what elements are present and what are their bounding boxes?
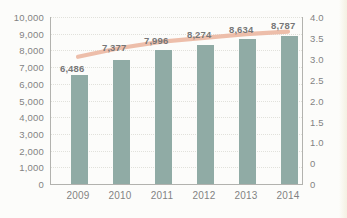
bars-layer bbox=[51, 17, 302, 184]
y2-axis-label-1-0: 1.0 bbox=[310, 137, 324, 148]
y-axis-label-9000: 9,000 bbox=[0, 29, 44, 40]
y2-axis-label-1-5: 1.5 bbox=[310, 117, 324, 128]
data-label-2012: 8,274 bbox=[187, 29, 211, 40]
y2-axis-label-4-0: 4.0 bbox=[310, 12, 324, 23]
y-axis-label-3000: 3,000 bbox=[0, 129, 44, 140]
scan-edge-strip bbox=[339, 0, 347, 218]
y-axis-label-6000: 6,000 bbox=[0, 79, 44, 90]
x-axis-label-2013: 2013 bbox=[225, 190, 267, 201]
chart-container: 10,000 9,000 8,000 7,000 6,000 5,000 4,0… bbox=[0, 0, 347, 218]
bar-2009 bbox=[71, 75, 88, 184]
bar-2010 bbox=[113, 60, 130, 184]
y2-axis-label-0-5: 0 bbox=[310, 158, 315, 169]
y2-axis-label-3-5: 3.5 bbox=[310, 33, 324, 44]
y-axis-label-7000: 7,000 bbox=[0, 62, 44, 73]
x-axis-label-2014: 2014 bbox=[267, 190, 309, 201]
y-axis-label-10000: 10,000 bbox=[0, 12, 44, 23]
y-axis-label-5000: 5,000 bbox=[0, 96, 44, 107]
data-label-2011: 7,996 bbox=[144, 35, 168, 46]
data-label-2013: 8,634 bbox=[229, 24, 253, 35]
data-label-2009: 6,486 bbox=[60, 63, 84, 74]
y-axis-label-4000: 4,000 bbox=[0, 112, 44, 123]
y2-axis-label-0: 0 bbox=[310, 179, 315, 190]
y2-axis-label-3-0: 3.0 bbox=[310, 54, 324, 65]
x-axis-label-2010: 2010 bbox=[99, 190, 141, 201]
bar-2013 bbox=[239, 39, 256, 184]
data-label-2010: 7,377 bbox=[102, 42, 126, 53]
y-axis-label-8000: 8,000 bbox=[0, 45, 44, 56]
bar-2011 bbox=[155, 50, 172, 184]
y-axis-label-1000: 1,000 bbox=[0, 162, 44, 173]
x-axis-label-2009: 2009 bbox=[57, 190, 99, 201]
plot-area bbox=[50, 17, 303, 185]
y2-axis-label-2-5: 2.5 bbox=[310, 75, 324, 86]
x-axis-label-2011: 2011 bbox=[141, 190, 183, 201]
data-label-2014: 8,787 bbox=[271, 20, 295, 31]
y-axis-label-2000: 2,000 bbox=[0, 146, 44, 157]
bar-2012 bbox=[197, 45, 214, 184]
y-axis-label-0: 0 bbox=[0, 179, 44, 190]
bar-2014 bbox=[281, 36, 298, 184]
y2-axis-label-2-0: 2.0 bbox=[310, 96, 324, 107]
x-axis-label-2012: 2012 bbox=[183, 190, 225, 201]
